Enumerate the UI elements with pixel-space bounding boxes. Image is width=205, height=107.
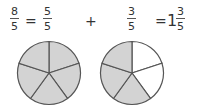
denominator: 5 <box>11 19 18 32</box>
equals-sign: = <box>25 14 37 28</box>
plus-sign: + <box>85 14 97 28</box>
denominator: 5 <box>177 19 184 32</box>
numerator: 3 <box>176 6 185 18</box>
fraction-5-5: 5 5 <box>43 6 52 32</box>
equals-sign: = <box>155 14 167 28</box>
mixed-number-fraction: 3 5 <box>176 6 185 32</box>
numerator: 3 <box>127 6 136 18</box>
numerator: 8 <box>10 6 19 18</box>
denominator: 5 <box>128 19 135 32</box>
numerator: 5 <box>43 6 52 18</box>
pie-chart-three-fifths <box>99 40 165 106</box>
fraction-3-5: 3 5 <box>127 6 136 32</box>
fraction-8-5: 8 5 <box>10 6 19 32</box>
pie-chart-five-fifths <box>16 40 82 106</box>
denominator: 5 <box>44 19 51 32</box>
